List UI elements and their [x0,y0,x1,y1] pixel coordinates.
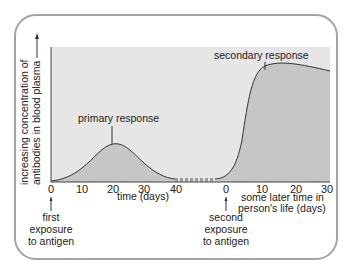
antibody-response-diagram: increasing concentration of antibodies i… [0,0,353,270]
y-axis-label-line2: antibodies in blood plasma [30,61,42,185]
tick-label: 0 [223,183,229,195]
primary-response-label: primary response [78,112,159,124]
arrow-up-icon [35,33,39,39]
second-exposure-line1: second [209,211,243,223]
tick-label: 10 [76,183,88,195]
y-axis-label-line1: increasing concentration of [18,59,30,185]
secondary-response-label: secondary response [214,49,309,61]
first-exposure-line3: to antigen [28,235,74,247]
x-axis-primary-label: time (days) [117,190,169,202]
second-exposure-label: second exposure to antigen [203,211,249,247]
first-exposure-line2: exposure [29,223,72,235]
second-exposure-line2: exposure [204,223,247,235]
x-axis-secondary-label-line2: person's life (days) [238,202,326,214]
first-exposure-line1: first [43,211,60,223]
tick-label: 40 [170,183,182,195]
second-exposure-line3: to antigen [203,235,249,247]
tick-label: 0 [48,183,54,195]
arrow-up-icon [50,196,53,201]
arrow-up-icon [225,196,228,201]
first-exposure-label: first exposure to antigen [28,211,74,247]
